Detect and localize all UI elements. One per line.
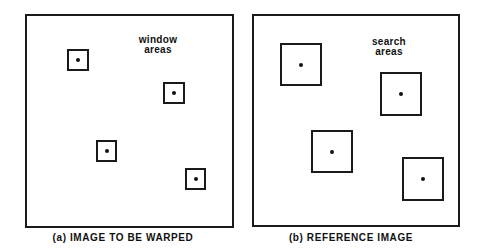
panel-image-to-be-warped xyxy=(25,14,234,228)
label-line2: areas xyxy=(364,47,414,57)
center-point-icon xyxy=(194,177,198,181)
window-area-box xyxy=(96,140,117,162)
center-point-icon xyxy=(330,150,334,154)
center-point-icon xyxy=(399,92,403,96)
search-area-box xyxy=(280,43,322,86)
center-point-icon xyxy=(105,149,109,153)
window-areas-label: window areas xyxy=(132,35,184,55)
center-point-icon xyxy=(76,58,80,62)
center-point-icon xyxy=(421,177,425,181)
window-area-box xyxy=(67,49,89,71)
center-point-icon xyxy=(172,91,176,95)
window-area-box xyxy=(185,168,206,190)
center-point-icon xyxy=(299,63,303,67)
search-areas-label: search areas xyxy=(364,37,414,57)
search-area-box xyxy=(402,157,444,201)
label-line2: areas xyxy=(132,45,184,55)
search-area-box xyxy=(311,130,353,173)
window-area-box xyxy=(163,82,185,104)
caption-a: (a) IMAGE TO BE WARPED xyxy=(25,232,221,243)
search-area-box xyxy=(380,72,422,116)
caption-b: (b) REFERENCE IMAGE xyxy=(271,232,431,243)
